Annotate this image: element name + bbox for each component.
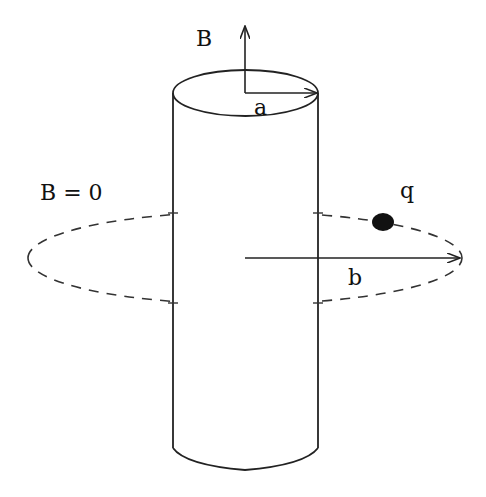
label-B: B	[196, 26, 212, 51]
label-B-zero: B = 0	[40, 180, 103, 205]
cylinder	[173, 70, 318, 470]
charge-dot	[372, 213, 394, 231]
label-b: b	[348, 265, 362, 290]
label-q: q	[400, 178, 414, 203]
solenoid-diagram: B a B = 0 q b	[0, 0, 486, 497]
label-a: a	[254, 95, 267, 120]
